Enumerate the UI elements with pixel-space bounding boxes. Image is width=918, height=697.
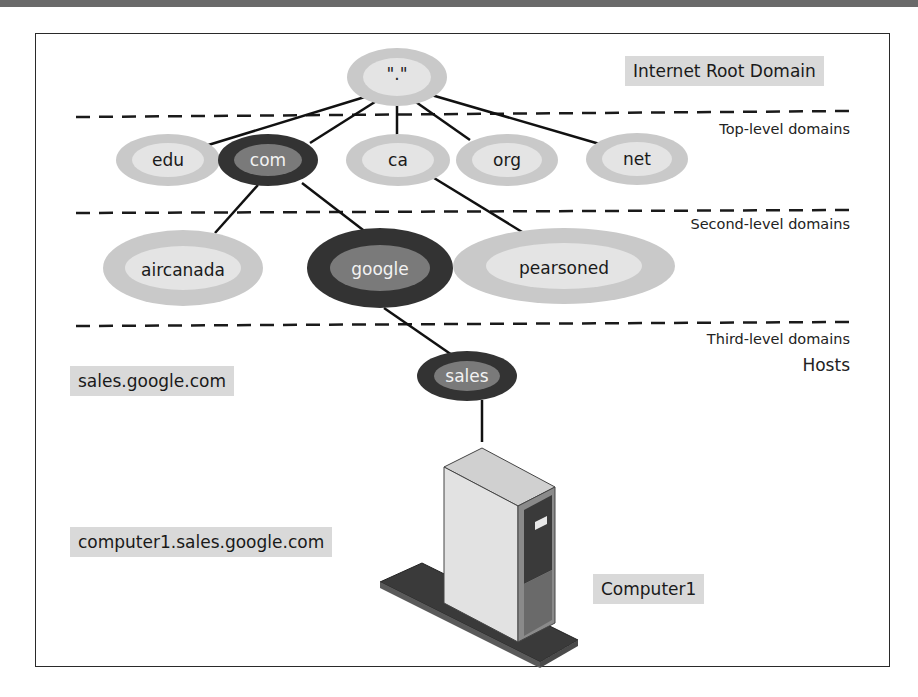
third-level-node-sales: sales — [417, 351, 517, 401]
label-second-level-domains: Second-level domains — [690, 216, 850, 232]
tld-node-ca: ca — [346, 134, 450, 186]
svg-text:net: net — [623, 149, 651, 169]
tld-node-edu: edu — [116, 134, 220, 186]
fqdn-tag-sales: sales.google.com — [70, 366, 234, 396]
svg-text:com: com — [250, 150, 286, 170]
label-top-level-domains: Top-level domains — [719, 121, 850, 137]
root-domain-tag: Internet Root Domain — [625, 56, 824, 86]
sld-node-aircanada: aircanada — [103, 230, 263, 306]
dns-hierarchy-diagram: "." edu com ca org net aircanada google — [0, 0, 918, 697]
svg-text:google: google — [351, 259, 409, 279]
label-hosts: Hosts — [802, 355, 850, 375]
label-third-level-domains: Third-level domains — [707, 331, 850, 347]
tld-node-com: com — [218, 134, 318, 186]
tld-node-org: org — [456, 134, 558, 186]
tld-node-net: net — [586, 133, 688, 185]
svg-text:sales: sales — [445, 366, 488, 386]
root-node: "." — [347, 48, 447, 106]
fqdn-tag-computer: computer1.sales.google.com — [70, 527, 332, 557]
separator-second-level — [76, 210, 850, 213]
svg-text:pearsoned: pearsoned — [519, 258, 609, 278]
server-tower-icon — [380, 448, 578, 668]
separator-top-level — [76, 111, 850, 117]
sld-node-pearsoned: pearsoned — [453, 228, 675, 304]
svg-text:ca: ca — [388, 150, 408, 170]
root-node-label: "." — [386, 64, 407, 84]
svg-text:aircanada: aircanada — [141, 260, 225, 280]
svg-text:edu: edu — [152, 150, 184, 170]
sld-node-google: google — [307, 228, 453, 308]
svg-text:org: org — [493, 150, 521, 170]
host-label-tag: Computer1 — [593, 574, 704, 604]
separator-third-level — [76, 322, 850, 326]
